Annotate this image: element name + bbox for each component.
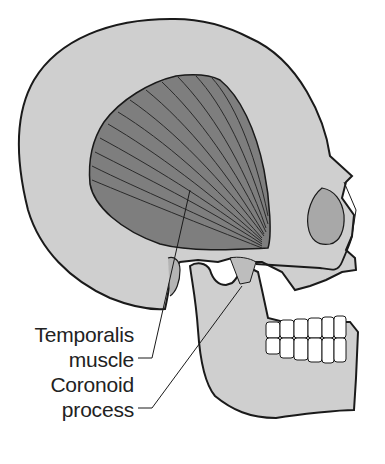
label-temporalis-muscle: Temporalis muscle [30,322,134,372]
label-line: muscle [30,347,134,372]
mastoid [168,258,180,297]
label-coronoid-process: Coronoid process [30,372,134,422]
label-line: Coronoid [30,372,134,397]
label-line: Temporalis [30,322,134,347]
label-line: process [30,397,134,422]
